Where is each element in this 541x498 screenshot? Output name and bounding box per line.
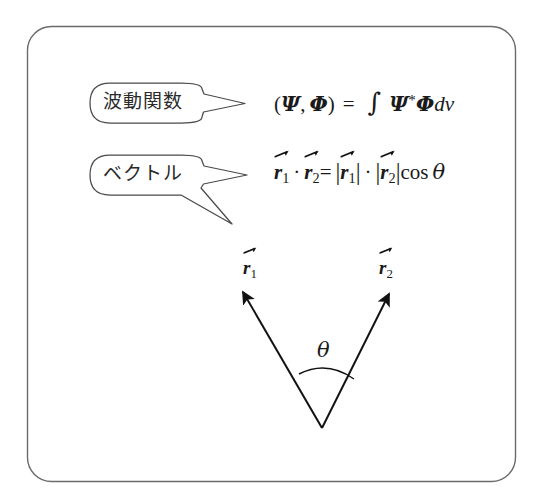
equals-sign: = [320,160,332,184]
vector-r1-line [243,292,322,428]
r-symbol-1: r [340,160,348,184]
integral-sign: ∫ [368,87,382,117]
diagram-label-theta: θ [317,340,330,361]
phi-symbol-rhs: Φ [416,91,434,116]
r-symbol-1: r [274,160,282,184]
theta-symbol: θ [433,160,446,184]
callout-label-wave-function: 波動関数 [103,92,183,111]
subscript: 2 [386,266,392,281]
figure-page: 波動関数 ベクトル (Ψ,Φ)=∫Ψ*Φdv r1· r2=| r1|·| r2… [0,0,541,498]
paren-close: ) [328,92,335,116]
subscript: 1 [250,266,256,281]
abs-bar-close-1: | [356,160,361,184]
formula-inner-product: (Ψ,Φ)=∫Ψ*Φdv [274,89,454,115]
conjugate-star: * [408,92,416,108]
figure-canvas [0,0,541,498]
equals-sign: = [343,92,355,116]
angle-arc [299,368,354,379]
vector-diagram [243,292,389,428]
psi-symbol: Ψ [281,91,300,116]
formula-dot-product: r1· r2=| r1|·| r2|cosθ [274,160,445,185]
subscript-2: 2 [389,170,396,186]
cos-operator: cos [401,160,429,184]
comma: , [300,92,305,116]
paren-open: ( [274,92,281,116]
diagram-label-r2: r2 [379,258,393,281]
r-symbol-2: r [304,160,312,184]
vector-r2-line [322,294,389,428]
dot-operator-1: · [293,160,300,184]
phi-symbol: Φ [309,91,327,116]
vector-r2-label-term: r2 [379,258,393,281]
vector-r2-term: r2 [304,162,319,185]
vector-r1-label-term: r1 [243,258,257,281]
subscript-1: 1 [282,170,289,186]
vector-r1-term: r1 [274,162,289,185]
callout-label-vector: ベクトル [103,164,183,183]
dot-operator-2: · [365,160,372,184]
vector-r2-magnitude-term: r2 [380,162,395,185]
vector-r1-magnitude-term: r1 [340,162,355,185]
psi-symbol-rhs: Ψ [389,91,408,116]
subscript-2: 2 [313,170,320,186]
r-symbol-2: r [380,160,388,184]
diagram-label-r1: r1 [243,258,257,281]
differential-dv: dv [434,92,454,116]
subscript-1: 1 [349,170,356,186]
